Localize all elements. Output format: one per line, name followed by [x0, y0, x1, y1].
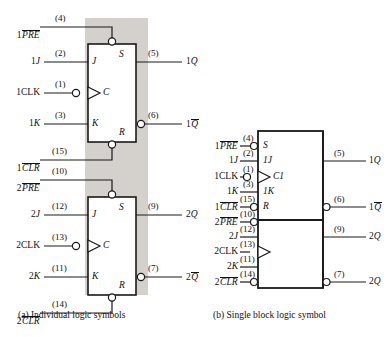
signal-label-2j-a: 2J [0, 210, 40, 220]
inner-label-k-ff2: K [92, 272, 98, 282]
inner-label-r-ff1: R [119, 128, 125, 138]
signal-label-2k-b: 2K [196, 262, 238, 272]
inner-label-s-b: S [263, 141, 268, 151]
signal-label-2qbar-b: 2Q [369, 277, 381, 287]
inner-label-r-ff2: R [119, 281, 125, 291]
bubble-1qbar [137, 120, 144, 127]
pin-number-14-a: (14) [52, 300, 67, 309]
signal-label-2pre-b: 2PRE [196, 217, 238, 228]
pin-number-1-a: (1) [55, 80, 66, 89]
bubble-2clk [72, 242, 79, 249]
pin-number-10-b: (10) [240, 210, 255, 219]
inner-label-j-ff1: J [92, 57, 96, 67]
pin-number-13-a: (13) [52, 233, 67, 242]
inner-label-s-ff2: S [119, 203, 124, 213]
signal-label-1k-a: 1K [0, 119, 40, 129]
signal-label-2clk-b: 2CLK [196, 247, 238, 257]
signal-label-1pre-b: 1PRE [196, 141, 238, 152]
bubble-b-2clr [251, 279, 258, 286]
signal-label-2k-a: 2K [0, 272, 40, 282]
pin-number-4-a: (4) [55, 14, 66, 23]
inner-label-s-ff1: S [119, 50, 124, 60]
pin-number-6-b: (6) [334, 195, 345, 204]
signal-label-1j-a: 1J [0, 57, 40, 67]
signal-label-1clk-b: 1CLK [196, 172, 238, 182]
bubble-2clr [108, 294, 115, 301]
inner-label-c-ff2: C [103, 241, 109, 251]
bubble-b-1qbar [323, 204, 330, 211]
signal-label-1qbar-b: 1Q [369, 202, 382, 213]
pin-number-11-a: (11) [52, 264, 67, 273]
pin-number-7-a: (7) [148, 264, 159, 273]
pin-number-12-a: (12) [52, 202, 67, 211]
pin-number-3-a: (3) [55, 111, 66, 120]
figure-flipflop-logic-symbols: 1PRE 1J 1CLK 1K 1CLR 2PRE 2J 2CLK 2K 2CL… [0, 0, 387, 337]
pin-number-10-a: (10) [52, 167, 67, 176]
pin-number-7-b: (7) [334, 270, 345, 279]
signal-label-2clk-a: 2CLK [0, 241, 40, 251]
inner-label-c-ff1: C [103, 88, 109, 98]
pin-number-12-b: (12) [240, 225, 255, 234]
signal-label-1clr-b: 1CLR [196, 202, 238, 213]
signal-label-2q-b: 2Q [369, 232, 381, 242]
signal-label-1q-b: 1Q [369, 156, 381, 166]
pin-number-9-b: (9) [334, 225, 345, 234]
pin-number-6-a: (6) [148, 111, 159, 120]
bubble-b-2qbar [323, 279, 330, 286]
signal-label-1q-a: 1Q [186, 57, 198, 67]
bubble-1clk [72, 89, 79, 96]
pin-number-2-a: (2) [55, 49, 66, 58]
signal-label-1qbar-a: 1Q [186, 119, 199, 130]
pin-number-15-b: (15) [240, 195, 255, 204]
caption-panel-a: (a) Individual logic symbols [18, 311, 125, 321]
signal-label-1j-b: 1J [196, 156, 238, 166]
inner-label-j-ff2: J [92, 210, 96, 220]
pin-number-13-b: (13) [240, 240, 255, 249]
pin-number-5-b: (5) [334, 149, 345, 158]
pin-number-9-a: (9) [148, 202, 159, 211]
bubble-2pre [108, 191, 115, 198]
pin-number-1-b: (1) [243, 165, 254, 174]
signal-label-2j-b: 2J [196, 232, 238, 242]
signal-label-2clr-b: 2CLR [196, 277, 238, 288]
pin-number-11-b: (11) [240, 255, 255, 264]
inner-label-c1-b: C1 [273, 172, 284, 182]
signal-label-1clk-a: 1CLK [0, 88, 40, 98]
bubble-2qbar [137, 273, 144, 280]
pin-number-15-a: (15) [52, 147, 67, 156]
signal-label-1clr-a: 1CLR [0, 163, 40, 174]
pin-number-4-b: (4) [243, 134, 254, 143]
bubble-1pre [108, 38, 115, 45]
inner-label-1k-b: 1K [263, 187, 274, 197]
pin-number-3-b: (3) [243, 180, 254, 189]
bubble-1clr [108, 141, 115, 148]
signal-label-1k-b: 1K [196, 187, 238, 197]
inner-label-1j-b: 1J [263, 156, 272, 166]
panel-b-wires [240, 131, 366, 288]
signal-label-1pre-a: 1PRE [0, 30, 40, 41]
pin-number-14-b: (14) [240, 270, 255, 279]
caption-panel-b: (b) Single block logic symbol [213, 311, 326, 321]
inner-label-r-b: R [263, 202, 269, 212]
inner-label-k-ff1: K [92, 119, 98, 129]
pin-number-2-b: (2) [243, 149, 254, 158]
signal-label-2pre-a: 2PRE [0, 183, 40, 194]
pin-number-5-a: (5) [148, 49, 159, 58]
